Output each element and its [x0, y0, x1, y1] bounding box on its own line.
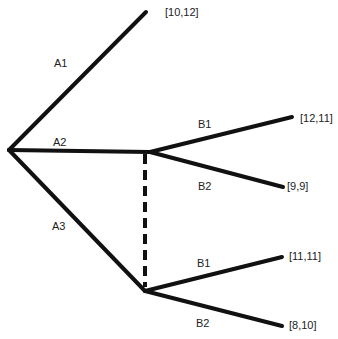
edge-a1 — [9, 12, 146, 150]
edge-a3-b1 — [145, 257, 282, 291]
action-label-a2: A2 — [53, 137, 66, 148]
payoff-a3-b1: [11,11] — [289, 251, 321, 262]
edge-a2-b1 — [150, 117, 292, 152]
payoff-a2-b1: [12,11] — [300, 113, 333, 124]
edge-a2-b2 — [150, 152, 283, 187]
edge-a3-b2 — [145, 291, 282, 326]
payoff-a3-b2: [8,10] — [289, 320, 317, 331]
action-label-a3: A3 — [52, 221, 65, 232]
game-tree-edges — [0, 0, 338, 339]
payoff-a1: [10,12] — [165, 7, 199, 18]
payoff-a2-b2: [9,9] — [287, 181, 308, 192]
action-label-b1-upper: B1 — [198, 119, 211, 130]
action-label-a1: A1 — [54, 58, 67, 69]
action-label-b2-lower: B2 — [196, 318, 209, 329]
edge-a2 — [9, 150, 150, 152]
action-label-b2-upper: B2 — [198, 181, 211, 192]
edge-a3 — [9, 150, 145, 291]
action-label-b1-lower: B1 — [197, 258, 210, 269]
